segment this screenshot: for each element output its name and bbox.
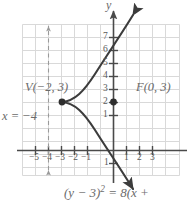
y-tick-4: 4: [103, 70, 108, 80]
x-tick--3: −3: [55, 152, 65, 162]
y-tick-7: 7: [103, 31, 108, 41]
x-tick--4: −4: [42, 152, 52, 162]
x-tick-2: 2: [137, 152, 142, 162]
y-axis-label: y: [106, 0, 111, 13]
focus-point: [110, 99, 117, 106]
x-tick--1: −1: [81, 152, 91, 162]
y-tick-6: 6: [103, 44, 108, 54]
directrix-label: x = −4: [2, 109, 37, 124]
y-tick-1: 1: [103, 109, 108, 119]
y-tick-3: 3: [103, 83, 108, 93]
y-tick-5: 5: [103, 57, 108, 67]
y-tick--1: 1: [104, 157, 109, 167]
x-tick--5: −5: [29, 152, 39, 162]
x-tick--2: −2: [68, 152, 78, 162]
parabola-figure: y V(−2, 3) F(0, 3) x = −4 (y − 3)2 = 8(x…: [0, 0, 190, 207]
x-tick-3: 3: [150, 152, 155, 162]
equation-label: (y − 3)2 = 8(x +: [64, 184, 149, 201]
vertex-point: [59, 99, 66, 106]
focus-label: F(0, 3): [136, 80, 171, 95]
x-tick-1: 1: [124, 152, 129, 162]
graph-canvas: [0, 0, 190, 207]
vertex-label: V(−2, 3): [25, 80, 68, 95]
y-tick-2: 2: [103, 96, 108, 106]
